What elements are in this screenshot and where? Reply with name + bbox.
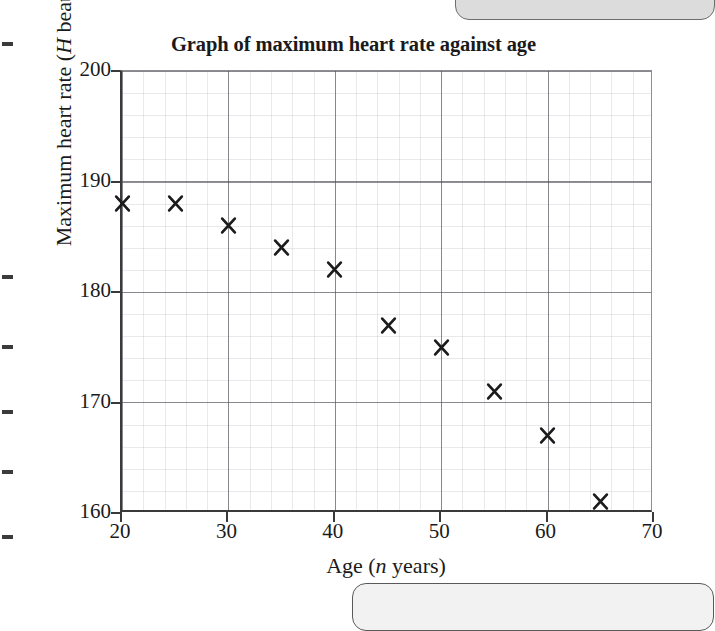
x-tick-label-40: 40: [303, 519, 363, 544]
y-axis-title: Maximum heart rate (H beats per minute): [51, 0, 77, 293]
data-point-marker: [432, 338, 451, 357]
y-tick-label-170: 170: [51, 389, 111, 414]
y-tick-label-190: 190: [51, 168, 111, 193]
data-point-marker: [113, 194, 132, 213]
y-axis-title-pre: Maximum heart rate (: [51, 54, 76, 246]
x-axis-title-pre: Age (: [326, 553, 375, 578]
x-tick-label-60: 60: [516, 519, 576, 544]
grid-major: [122, 71, 651, 510]
x-tick-label-70: 70: [622, 519, 682, 544]
x-tick-label-30: 30: [196, 519, 256, 544]
x-tick-label-50: 50: [409, 519, 469, 544]
y-axis-title-post: beats per minute): [51, 0, 76, 38]
data-point-marker: [325, 260, 344, 279]
data-point-marker: [272, 238, 291, 257]
x-axis-title-post: years): [387, 553, 446, 578]
chart-title: Graph of maximum heart rate against age: [0, 33, 685, 56]
y-tick-label-200: 200: [51, 57, 111, 82]
y-tick-label-180: 180: [51, 278, 111, 303]
x-axis-variable-n: n: [376, 553, 387, 578]
plot-area: [120, 70, 652, 512]
data-point-marker: [379, 316, 398, 335]
x-axis-title: Age (n years): [120, 553, 652, 579]
data-point-marker: [538, 426, 557, 445]
data-point-marker: [485, 382, 504, 401]
data-point-marker: [591, 492, 610, 511]
y-axis-variable-h: H: [51, 38, 76, 54]
data-point-marker: [166, 194, 185, 213]
data-point-marker: [219, 216, 238, 235]
x-tick-label-20: 20: [90, 519, 150, 544]
